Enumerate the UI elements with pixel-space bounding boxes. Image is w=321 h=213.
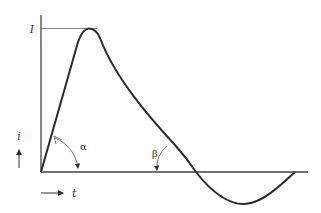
waveform-diagram: I α β i t [0,0,321,213]
y-axis-label: i [17,130,21,143]
peak-label: I [29,23,35,36]
current-waveform-curve [41,29,295,205]
alpha-angle-arc-start [54,136,62,144]
alpha-angle-label: α [80,141,87,152]
x-axis-label: t [72,187,77,200]
beta-angle-arc [157,146,167,170]
alpha-angle-arc [55,138,78,168]
beta-angle-label: β [152,148,158,159]
